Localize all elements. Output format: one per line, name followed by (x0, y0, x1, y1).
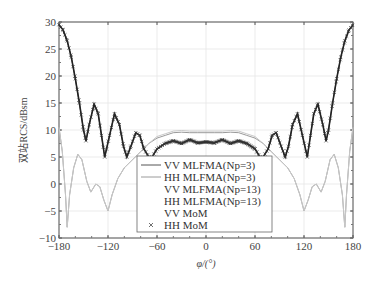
y-axis-label: 双站RCS/dBsm (17, 97, 29, 162)
x-tick-label: −120 (97, 240, 120, 252)
y-tick-label: 20 (45, 70, 57, 82)
x-tick-label: 0 (203, 240, 209, 252)
y-tick-label: 25 (45, 43, 57, 55)
y-tick-label: 15 (45, 97, 57, 109)
y-tick-label: −5 (44, 205, 56, 217)
y-tick-label: 30 (45, 16, 57, 28)
x-tick-label: 60 (250, 240, 262, 252)
x-axis-label: φ/(°) (197, 258, 217, 270)
y-tick-label: 10 (45, 124, 57, 136)
legend-label: HH MoM (164, 219, 208, 231)
y-tick-label: −10 (39, 232, 57, 244)
y-tick-label: 0 (51, 178, 57, 190)
legend-label: VV MoM (164, 207, 208, 219)
x-tick-label: 180 (345, 240, 362, 252)
rcs-chart: −180−120−60060120180−10−5051015202530φ/(… (0, 0, 380, 283)
x-tick-label: 120 (296, 240, 313, 252)
y-tick-label: 5 (51, 151, 57, 163)
x-tick-label: −60 (148, 240, 166, 252)
